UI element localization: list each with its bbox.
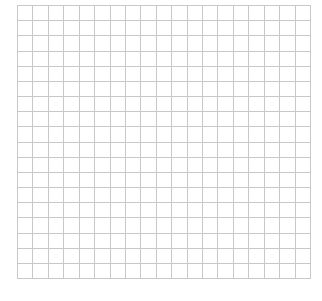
grid-lines — [17, 5, 311, 279]
graph-paper-grid — [17, 5, 311, 279]
